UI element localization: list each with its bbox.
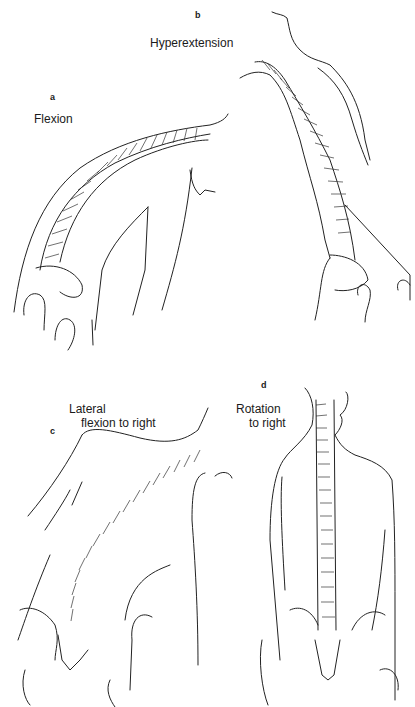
- spine-illustrations: [0, 0, 415, 707]
- spine-flexion-icon: [14, 114, 228, 350]
- spine-lateral-flexion-icon: [18, 408, 232, 707]
- spine-hyperextension-icon: [240, 12, 410, 322]
- spine-rotation-icon: [260, 388, 398, 705]
